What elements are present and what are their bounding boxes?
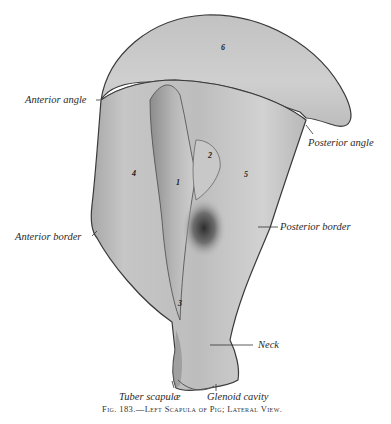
figure-caption: Fig. 183.—Left Scapula of Pig; Lateral V… (102, 404, 282, 414)
marker-6: 6 (221, 43, 225, 52)
label-anterior-angle: Anterior angle (25, 94, 87, 105)
scapula-figure: 6 4 1 2 5 3 Anterior angle Posterior ang… (0, 0, 391, 424)
leader-posterior-angle (306, 125, 313, 134)
label-glenoid-cavity: Glenoid cavity (207, 391, 269, 402)
marker-1: 1 (176, 178, 180, 187)
label-neck: Neck (258, 339, 279, 350)
marker-5: 5 (244, 170, 248, 179)
label-posterior-angle: Posterior angle (308, 137, 374, 148)
marker-4: 4 (132, 169, 136, 178)
label-tuber-scapulae: Tuber scapulæ (119, 391, 181, 402)
label-posterior-border: Posterior border (280, 221, 351, 232)
caption-title: Left Scapula of Pig; Lateral View. (145, 404, 283, 414)
marker-2: 2 (208, 151, 212, 160)
label-anterior-border: Anterior border (15, 231, 81, 242)
caption-dash: — (136, 404, 145, 414)
scapula-illustration (0, 0, 391, 424)
marker-3: 3 (178, 299, 182, 308)
caption-prefix: Fig. 183. (102, 404, 136, 414)
